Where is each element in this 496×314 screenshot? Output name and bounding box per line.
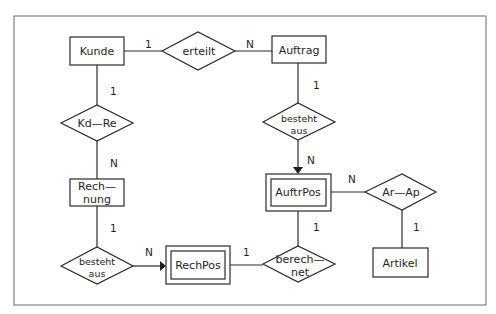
entity-auftrag[interactable]: Auftrag (272, 36, 326, 63)
entity-auftrag-label: Auftrag (279, 44, 320, 57)
relationship-besteht-aus-auftrag[interactable]: besteht aus (263, 103, 335, 140)
entity-auftrpos-weak[interactable]: AuftrPos (266, 174, 331, 211)
entity-rechnung[interactable]: Rech— nung (70, 179, 124, 206)
relationship-erteilt[interactable]: erteilt (162, 32, 235, 70)
relationship-kd-re-label: Kd—Re (77, 117, 116, 130)
entity-rechpos-weak[interactable]: RechPos (166, 246, 230, 284)
relationship-besteht-aus-auftrag-line1: besteht (281, 113, 317, 124)
entity-auftrpos-label: AuftrPos (275, 186, 321, 199)
entity-kunde-label: Kunde (80, 45, 115, 58)
arrow-to-rechpos-icon (160, 261, 166, 271)
relationship-berechnet[interactable]: berech— net (263, 246, 335, 282)
cardinality-besteht-rechpos: N (145, 246, 153, 258)
cardinality-labels: 1 N 1 N 1 N 1 N 1 1 N 1 (110, 38, 420, 258)
er-diagram: Kunde Auftrag Rech— nung RechPos AuftrPo… (0, 0, 496, 314)
relationship-besteht-aus-rechnung[interactable]: besteht aus (61, 247, 133, 284)
entity-artikel[interactable]: Artikel (373, 248, 428, 277)
cardinality-rechnung-besteht: 1 (110, 222, 117, 234)
cardinality-rechpos-berechnet: 1 (243, 246, 250, 258)
relationship-berechnet-line2: net (291, 266, 310, 279)
cardinality-auftrag-besteht: 1 (313, 79, 320, 91)
entity-artikel-label: Artikel (382, 257, 417, 270)
entity-rechpos-label: RechPos (175, 259, 221, 272)
entity-rechnung-label-line2: nung (83, 193, 111, 206)
arrow-to-auftrpos-icon (293, 167, 303, 174)
relationship-besteht-aus-auftrag-line2: aus (291, 125, 308, 136)
cardinality-erteilt-auftrag: N (246, 38, 254, 50)
cardinality-kunde-kdre: 1 (110, 85, 117, 97)
cardinality-auftrpos-berechnet: 1 (313, 221, 320, 233)
entity-rechnung-label-line1: Rech— (78, 180, 116, 193)
relationship-besteht-aus-rechnung-line1: besteht (79, 256, 115, 267)
entity-kunde[interactable]: Kunde (70, 37, 124, 65)
relationship-erteilt-label: erteilt (183, 45, 216, 58)
relationship-besteht-aus-rechnung-line2: aus (89, 268, 106, 279)
relationship-ar-ap[interactable]: Ar—Ap (365, 174, 436, 210)
connector-lines (97, 51, 402, 266)
cardinality-auftrpos-arap: N (348, 173, 356, 185)
relationship-kd-re[interactable]: Kd—Re (61, 105, 133, 141)
cardinality-besteht-auftrpos: N (307, 154, 315, 166)
cardinality-kunde-erteilt: 1 (145, 38, 152, 50)
cardinality-arap-artikel: 1 (413, 221, 420, 233)
relationship-berechnet-line1: berech— (276, 253, 325, 266)
relationship-ar-ap-label: Ar—Ap (382, 186, 420, 199)
cardinality-kdre-rechnung: N (110, 157, 118, 169)
